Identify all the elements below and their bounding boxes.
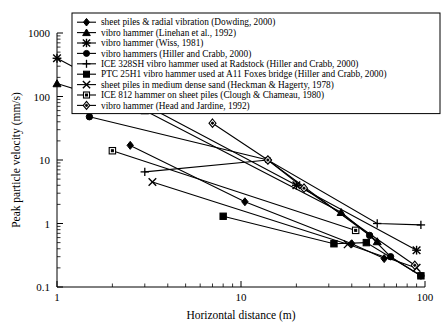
series-6 bbox=[149, 178, 421, 271]
series-4 bbox=[141, 156, 426, 229]
legend-item-3: vibro hammers (Hiller and Crabb, 2000) bbox=[77, 49, 251, 60]
y-tick-label: 1000 bbox=[28, 27, 51, 39]
x-tick-label: 100 bbox=[417, 291, 434, 303]
chart-container: 0.11101001000110100 sheet piles & radial… bbox=[0, 0, 448, 327]
legend-item-1: vibro hammer (Linehan et al., 1992) bbox=[77, 28, 236, 39]
x-tick-label: 1 bbox=[54, 291, 60, 303]
legend-label: sheet piles in medium dense sand (Heckma… bbox=[101, 80, 334, 91]
chart-legend: sheet piles & radial vibration (Dowding,… bbox=[72, 13, 440, 114]
legend-item-4: ICE 328SH vibro hammer used at Radstock … bbox=[77, 59, 358, 70]
legend-label: vibro hammer (Wiss, 1981) bbox=[101, 38, 203, 49]
legend-item-0: sheet piles & radial vibration (Dowding,… bbox=[77, 17, 275, 28]
legend-label: vibro hammers (Hiller and Crabb, 2000) bbox=[101, 49, 251, 60]
log-log-chart: 0.11101001000110100 sheet piles & radial… bbox=[0, 0, 448, 327]
y-axis-title: Peak particle velocity (mm/s) bbox=[10, 92, 23, 228]
y-tick-label: 1 bbox=[45, 218, 51, 230]
x-axis-title: Horizontal distance (m) bbox=[186, 309, 295, 322]
legend-item-8: vibro hammer (Head and Jardine, 1992) bbox=[77, 101, 250, 112]
legend-label: ICE 328SH vibro hammer used at Radstock … bbox=[101, 59, 358, 70]
legend-item-5: PTC 25H1 vibro hammer used at A11 Foxes … bbox=[77, 69, 387, 80]
legend-label: ICE 812 hammer on sheet piles (Clough & … bbox=[101, 90, 324, 101]
legend-label: vibro hammer (Head and Jardine, 1992) bbox=[101, 101, 250, 112]
series-5 bbox=[220, 213, 424, 279]
y-tick-label: 0.1 bbox=[36, 281, 50, 293]
legend-label: sheet piles & radial vibration (Dowding,… bbox=[101, 17, 275, 28]
legend-label: vibro hammer (Linehan et al., 1992) bbox=[101, 28, 236, 39]
legend-label: PTC 25H1 vibro hammer used at A11 Foxes … bbox=[101, 69, 387, 80]
legend-item-7: ICE 812 hammer on sheet piles (Clough & … bbox=[77, 90, 324, 101]
y-tick-label: 100 bbox=[34, 91, 51, 103]
y-tick-label: 10 bbox=[39, 154, 51, 166]
x-tick-label: 10 bbox=[236, 291, 248, 303]
legend-item-6: sheet piles in medium dense sand (Heckma… bbox=[77, 80, 334, 91]
